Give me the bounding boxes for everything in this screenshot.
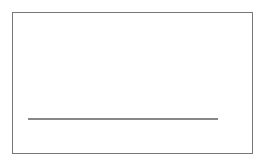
density-chart [0,0,270,161]
